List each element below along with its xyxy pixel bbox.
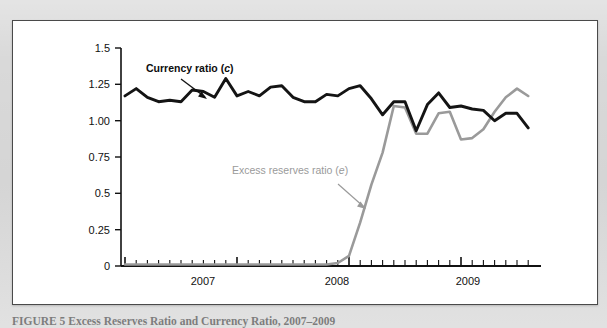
- series-line-excess-reserves-ratio: [125, 89, 528, 265]
- line-chart: 1.5 1.25 1.00 0.75 0.5 0.25 0: [13, 21, 599, 306]
- x-axis-label-2007: 2007: [191, 275, 215, 287]
- figure-panel: 1.5 1.25 1.00 0.75 0.5 0.25 0: [12, 20, 598, 305]
- series-label-excess-reserves-ratio-text: Excess reserves ratio (e): [232, 164, 348, 176]
- x-axis-label-2009: 2009: [456, 275, 480, 287]
- series-label-excess-reserves-ratio: Excess reserves ratio (e): [232, 164, 348, 176]
- figure-caption-text: FIGURE 5 Excess Reserves Ratio and Curre…: [12, 314, 598, 328]
- page-background: 1.5 1.25 1.00 0.75 0.5 0.25 0: [0, 0, 607, 328]
- annotation-excess-reserves-ratio: Excess reserves ratio (e): [232, 164, 366, 209]
- chart-plot-area: 1.5 1.25 1.00 0.75 0.5 0.25 0: [13, 21, 599, 306]
- series-label-currency-ratio: Currency ratio (c): [146, 62, 234, 74]
- y-axis-label-1-5: 1.5: [95, 42, 110, 54]
- y-axis-label-0: 0: [104, 260, 110, 272]
- y-axis-ticks: [115, 48, 121, 266]
- y-axis-label-1-00: 1.00: [89, 115, 110, 127]
- y-axis-label-0-25: 0.25: [89, 224, 110, 236]
- series-label-currency-ratio-text: Currency ratio (c): [146, 62, 234, 74]
- y-axis-label-1-25: 1.25: [89, 78, 110, 90]
- x-axis-label-2008: 2008: [325, 275, 349, 287]
- series-line-currency-ratio: [125, 79, 528, 131]
- y-axis-label-0-5: 0.5: [95, 187, 110, 199]
- y-axis-label-0-75: 0.75: [89, 151, 110, 163]
- figure-caption: FIGURE 5 Excess Reserves Ratio and Curre…: [12, 314, 598, 328]
